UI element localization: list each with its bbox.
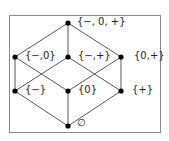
node-label-top: {−, 0, +} [77,16,126,28]
edge-p-bot [68,91,121,126]
node-label-zp: {0,+} [134,50,165,62]
node-zp [118,54,123,59]
node-label-m0: {−,0} [25,50,56,62]
node-p [118,88,123,93]
edges-group [15,23,121,126]
node-m [12,88,17,93]
node-z [65,88,70,93]
node-label-p: {+} [132,84,153,96]
node-label-bot: ∅ [77,117,86,129]
node-label-z: {0} [78,84,97,96]
edge-m-bot [15,91,68,126]
node-bot [65,123,70,128]
node-label-mp: {−,+} [78,50,111,62]
node-mp [65,54,70,59]
node-top [65,20,70,25]
node-m0 [12,54,17,59]
node-label-m: {−} [25,84,46,96]
